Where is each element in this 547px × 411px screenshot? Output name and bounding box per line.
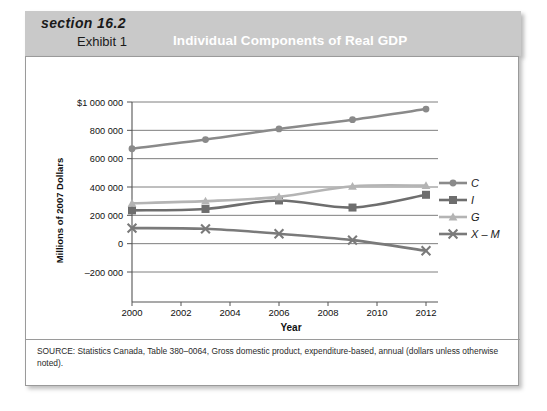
legend-item: C <box>438 174 500 191</box>
y-tick-label: 800 000 <box>90 126 123 136</box>
data-series-group <box>128 106 431 255</box>
legend-label: I <box>471 194 474 206</box>
triangle-marker <box>438 210 468 224</box>
source-divider <box>26 339 520 340</box>
legend-item: G <box>438 208 500 225</box>
series-C <box>129 106 430 152</box>
x-tick-label: 2002 <box>170 307 191 318</box>
square-marker <box>438 193 468 207</box>
square-data-marker <box>422 191 430 199</box>
series-line <box>132 228 426 251</box>
legend-label: C <box>471 177 479 189</box>
circle-marker <box>438 176 468 190</box>
circle-data-marker <box>349 116 356 123</box>
x-tick-label: 2000 <box>121 307 142 318</box>
y-tick-labels-group: $1 000 000800 000600 000400 000200 0000–… <box>77 98 123 278</box>
legend-item: I <box>438 191 500 208</box>
x-tick-labels-group: 2000200220042006200820102012 <box>121 307 436 318</box>
circle-data-marker <box>202 136 209 143</box>
y-tick-label: 400 000 <box>90 183 123 193</box>
source-note: SOURCE: Statistics Canada, Table 380–006… <box>37 345 505 369</box>
section-label: section 16.2 <box>41 15 126 31</box>
chart-title: Individual Components of Real GDP <box>173 33 407 48</box>
y-tick-label: 600 000 <box>90 154 123 164</box>
circle-data-marker <box>450 179 457 186</box>
series-XM <box>128 224 431 255</box>
circle-data-marker <box>276 126 283 133</box>
chart-plot-area: $1 000 000800 000600 000400 000200 0000–… <box>26 57 520 332</box>
square-data-marker <box>349 204 357 212</box>
x-tick-label: 2012 <box>415 307 436 318</box>
chart-legend: CIGX – M <box>438 174 500 242</box>
x-tick-label: 2008 <box>317 307 338 318</box>
y-tick-label: 200 000 <box>90 211 123 221</box>
circle-data-marker <box>129 145 136 152</box>
x-marker <box>438 227 468 241</box>
y-tick-label: 0 <box>118 239 123 249</box>
exhibit-header-band: section 16.2 Exhibit 1 Individual Compon… <box>25 11 521 56</box>
square-data-marker <box>202 205 210 213</box>
y-tick-label: –200 000 <box>85 268 123 278</box>
x-tick-label: 2006 <box>268 307 289 318</box>
x-axis-title: Year <box>146 322 436 333</box>
y-axis-title: Millions of 2007 Dollars <box>54 141 65 281</box>
x-tick-label: 2004 <box>219 307 240 318</box>
legend-item: X – M <box>438 225 500 242</box>
y-tick-label: $1 000 000 <box>77 98 123 108</box>
square-data-marker <box>449 196 457 204</box>
x-tick-label: 2010 <box>366 307 387 318</box>
circle-data-marker <box>423 106 430 113</box>
exhibit-card: $1 000 000800 000600 000400 000200 0000–… <box>25 56 519 386</box>
square-data-marker <box>128 206 136 214</box>
legend-label: G <box>471 211 480 223</box>
exhibit-label: Exhibit 1 <box>77 34 127 49</box>
legend-label: X – M <box>471 228 500 240</box>
